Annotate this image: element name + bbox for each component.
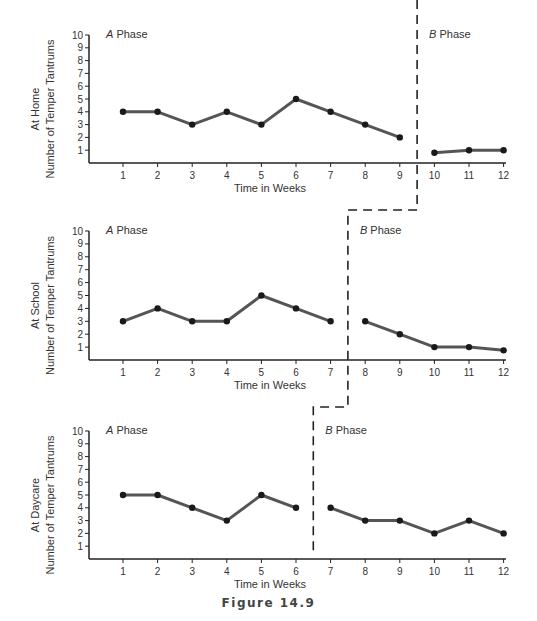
x-tick-label: 9 [397, 566, 403, 577]
setting-label: At School [29, 282, 41, 329]
data-point [120, 109, 126, 115]
y-tick-label: 4 [77, 106, 83, 117]
y-tick-label: 7 [77, 264, 83, 275]
data-point [500, 530, 506, 536]
data-point [258, 492, 264, 498]
y-tick-label: 10 [72, 30, 84, 41]
x-tick-label: 2 [155, 566, 161, 577]
x-tick-label: 6 [293, 566, 299, 577]
data-point [258, 292, 264, 298]
x-axis-title: Time in Weeks [234, 379, 307, 391]
x-tick-label: 3 [189, 170, 195, 181]
x-tick-label: 11 [464, 367, 475, 378]
figure-caption: Figure 14.9 [0, 596, 537, 610]
y-tick-label: 10 [72, 426, 84, 437]
x-tick-label: 11 [464, 566, 475, 577]
x-tick-label: 6 [293, 170, 299, 181]
data-point [120, 492, 126, 498]
data-point [293, 96, 299, 102]
data-point [362, 517, 368, 523]
y-tick-label: 6 [77, 277, 83, 288]
chart-panel-bottom: 12345678910123456789101112Time in WeeksA… [29, 424, 510, 590]
data-point [224, 318, 230, 324]
multiple-baseline-chart: 12345678910123456789101112Time in WeeksA… [0, 0, 537, 621]
y-tick-label: 3 [77, 515, 83, 526]
x-tick-label: 5 [259, 170, 265, 181]
x-tick-label: 4 [224, 566, 230, 577]
data-point [120, 318, 126, 324]
x-tick-label: 4 [224, 367, 230, 378]
data-point [397, 517, 403, 523]
data-point [293, 305, 299, 311]
y-tick-label: 2 [77, 329, 83, 340]
x-tick-label: 2 [155, 170, 161, 181]
x-tick-label: 9 [397, 367, 403, 378]
x-tick-label: 10 [429, 170, 441, 181]
chart-panel-middle: 12345678910123456789101112Time in WeeksA… [29, 224, 510, 391]
x-tick-label: 6 [293, 367, 299, 378]
x-tick-label: 12 [498, 566, 510, 577]
data-point [327, 505, 333, 511]
y-tick-label: 6 [77, 81, 83, 92]
x-axis-title: Time in Weeks [234, 182, 307, 194]
x-tick-label: 10 [429, 566, 441, 577]
x-tick-label: 7 [328, 566, 334, 577]
y-tick-label: 3 [77, 316, 83, 327]
data-point [397, 134, 403, 140]
y-tick-label: 10 [72, 226, 84, 237]
x-tick-label: 3 [189, 367, 195, 378]
y-axis-title: Number of Temper Tantrums [44, 236, 56, 375]
data-point [362, 318, 368, 324]
y-tick-label: 1 [77, 342, 83, 353]
y-axis-title: Number of Temper Tantrums [44, 435, 56, 574]
y-tick-label: 7 [77, 464, 83, 475]
x-tick-label: 10 [429, 367, 441, 378]
x-tick-label: 1 [120, 566, 126, 577]
x-tick-label: 7 [328, 367, 334, 378]
x-tick-label: 5 [259, 566, 265, 577]
data-point [431, 530, 437, 536]
data-line [123, 99, 400, 137]
x-tick-label: 5 [259, 367, 265, 378]
y-tick-label: 4 [77, 303, 83, 314]
x-tick-label: 8 [362, 170, 368, 181]
x-axis-title: Time in Weeks [234, 578, 307, 590]
setting-label: At Home [29, 88, 41, 131]
x-tick-label: 8 [362, 367, 368, 378]
data-point [189, 318, 195, 324]
y-tick-label: 6 [77, 477, 83, 488]
y-tick-label: 4 [77, 502, 83, 513]
data-line [123, 495, 296, 521]
x-tick-label: 8 [362, 566, 368, 577]
data-point [258, 121, 264, 127]
x-tick-label: 1 [120, 367, 126, 378]
y-tick-label: 9 [77, 42, 83, 53]
x-tick-label: 3 [189, 566, 195, 577]
data-point [224, 109, 230, 115]
b-phase-label: B Phase [429, 28, 471, 40]
y-tick-label: 2 [77, 528, 83, 539]
data-point [500, 147, 506, 153]
data-point [327, 109, 333, 115]
x-tick-label: 2 [155, 367, 161, 378]
b-phase-label: B Phase [360, 224, 402, 236]
data-point [466, 147, 472, 153]
y-tick-label: 5 [77, 490, 83, 501]
data-point [500, 347, 506, 353]
data-point [293, 505, 299, 511]
setting-label: At Daycare [29, 478, 41, 532]
x-tick-label: 11 [464, 170, 475, 181]
x-tick-label: 12 [498, 170, 510, 181]
y-tick-label: 8 [77, 251, 83, 262]
data-point [154, 305, 160, 311]
a-phase-label: A Phase [105, 224, 148, 236]
data-line [123, 296, 331, 322]
y-axis-title: Number of Temper Tantrums [44, 39, 56, 178]
y-tick-label: 1 [77, 145, 83, 156]
y-tick-label: 5 [77, 94, 83, 105]
data-point [466, 344, 472, 350]
data-point [431, 150, 437, 156]
y-tick-label: 3 [77, 119, 83, 130]
data-point [362, 121, 368, 127]
a-phase-label: A Phase [105, 424, 148, 436]
